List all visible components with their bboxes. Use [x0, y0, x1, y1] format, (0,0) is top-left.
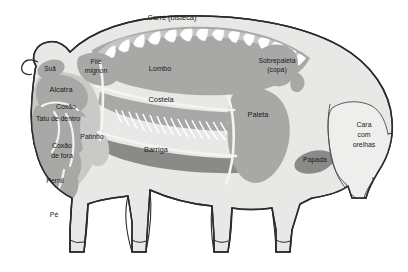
label-barriga: Barriga: [144, 145, 169, 154]
label-paleta: Paleta: [248, 110, 270, 119]
svg-text:Coxão: Coxão: [52, 142, 72, 149]
label-pe: Pé: [50, 211, 59, 218]
svg-text:mignon: mignon: [85, 67, 108, 75]
label-papada: Papada: [303, 156, 327, 164]
svg-text:de fora: de fora: [51, 152, 73, 159]
pig-diagram-svg: Carré (bisteca) Suã Filé mignon Lombo So…: [0, 0, 408, 272]
label-patinho: Patinho: [80, 133, 104, 140]
label-alcatra: Alcatra: [49, 85, 73, 94]
svg-text:Filé: Filé: [90, 58, 101, 65]
label-costela: Costela: [148, 95, 174, 104]
label-lombo: Lombo: [149, 64, 172, 73]
svg-text:orelhas: orelhas: [353, 141, 376, 148]
label-carre: Carré (bisteca): [148, 13, 197, 22]
svg-text:Sobrepaleta: Sobrepaleta: [258, 57, 295, 65]
svg-text:com: com: [357, 131, 370, 138]
pig-cuts-diagram: Carré (bisteca) Suã Filé mignon Lombo So…: [0, 0, 408, 272]
label-pernil: Pernil: [46, 177, 64, 184]
svg-text:Cara: Cara: [357, 121, 372, 128]
label-tatu-de-dentro: Tatu de dentro: [36, 115, 80, 122]
label-sua: Suã: [44, 65, 56, 72]
label-coxao: Coxão: [56, 103, 76, 110]
svg-text:(copa): (copa): [267, 66, 287, 74]
